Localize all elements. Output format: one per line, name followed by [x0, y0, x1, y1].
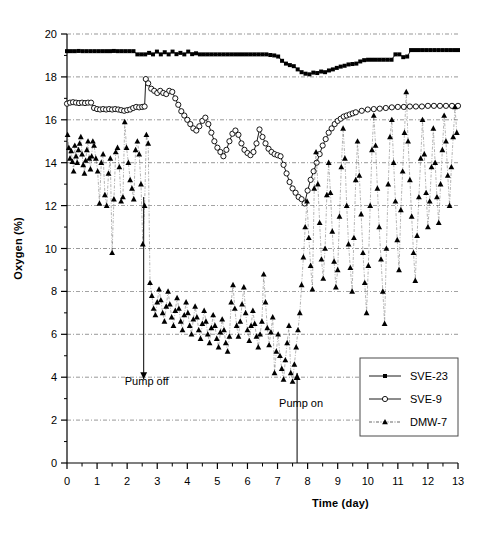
data-point-marker — [432, 160, 438, 165]
data-point-marker — [291, 361, 297, 366]
data-point-marker — [365, 107, 370, 112]
data-point-marker — [315, 71, 319, 75]
data-point-marker — [335, 267, 341, 272]
data-point-marker — [340, 125, 346, 130]
data-point-marker — [358, 211, 364, 216]
data-point-marker — [433, 48, 437, 52]
data-point-marker — [295, 327, 301, 332]
data-point-marker — [107, 155, 113, 160]
data-point-marker — [413, 104, 418, 109]
data-point-marker — [416, 194, 422, 199]
data-point-marker — [221, 154, 226, 159]
data-point-marker — [104, 203, 110, 208]
legend-label-dmw-7: DMW-7 — [410, 416, 447, 428]
data-point-marker — [373, 142, 379, 147]
data-point-marker — [355, 138, 361, 143]
legend-label-sve-23: SVE-23 — [410, 370, 448, 382]
data-point-marker — [155, 50, 159, 54]
y-tick-label: 10 — [45, 243, 57, 255]
data-point-marker — [412, 278, 418, 283]
data-point-marker — [356, 172, 362, 177]
data-point-marker — [346, 241, 352, 246]
data-point-marker — [292, 64, 296, 68]
data-point-marker — [364, 310, 370, 315]
data-point-marker — [167, 301, 173, 306]
data-point-marker — [425, 103, 430, 108]
data-point-marker — [326, 160, 332, 165]
data-point-marker — [151, 52, 155, 56]
data-point-marker — [421, 48, 425, 52]
data-point-marker — [335, 66, 339, 70]
data-point-marker — [376, 224, 382, 229]
data-point-marker — [180, 327, 186, 332]
x-tick-label: 3 — [154, 475, 160, 487]
chart-canvas: 02468101214161820012345678910111213Time … — [0, 0, 492, 533]
data-point-marker — [239, 301, 245, 306]
data-point-marker — [178, 318, 184, 323]
data-point-marker — [236, 132, 241, 137]
data-point-marker — [202, 52, 206, 56]
data-point-marker — [198, 52, 202, 56]
data-point-marker — [159, 52, 163, 56]
data-point-marker — [327, 68, 331, 72]
data-point-marker — [338, 164, 344, 169]
data-point-marker — [273, 348, 279, 353]
data-point-marker — [167, 52, 171, 56]
data-point-marker — [343, 64, 347, 68]
data-point-marker — [272, 53, 276, 57]
data-point-marker — [315, 181, 321, 186]
x-tick-label: 6 — [244, 475, 250, 487]
data-point-marker — [311, 71, 315, 75]
data-point-marker — [400, 168, 406, 173]
data-point-marker — [454, 130, 460, 135]
data-point-marker — [306, 235, 312, 240]
data-point-marker — [257, 52, 261, 56]
data-point-marker — [71, 168, 77, 173]
data-point-marker — [133, 147, 139, 152]
data-point-marker — [304, 72, 308, 76]
data-point-marker — [243, 310, 249, 315]
data-point-marker — [187, 323, 193, 328]
data-point-marker — [89, 153, 95, 158]
data-point-marker — [224, 147, 229, 152]
data-point-marker — [142, 104, 147, 109]
data-point-marker — [73, 49, 77, 53]
data-point-marker — [443, 103, 448, 108]
data-point-marker — [88, 166, 94, 171]
x-tick-label: 7 — [274, 475, 280, 487]
x-tick-label: 2 — [124, 475, 130, 487]
data-point-marker — [350, 62, 354, 66]
data-point-marker — [229, 52, 233, 56]
data-point-marker — [281, 162, 286, 167]
data-point-marker — [142, 203, 148, 208]
data-point-marker — [390, 58, 394, 62]
data-point-marker — [253, 52, 257, 56]
pump-on-label: Pump on — [279, 397, 323, 409]
data-point-marker — [174, 295, 180, 300]
series-sve-9 — [64, 76, 460, 206]
data-point-marker — [127, 177, 133, 182]
data-point-marker — [323, 137, 328, 142]
data-point-marker — [452, 48, 456, 52]
data-point-marker — [174, 52, 178, 56]
data-point-marker — [391, 160, 397, 165]
data-point-marker — [362, 280, 368, 285]
data-point-marker — [160, 310, 166, 315]
data-point-marker — [246, 338, 252, 343]
data-point-marker — [88, 49, 92, 53]
pump-on-arrowhead — [294, 373, 301, 380]
data-point-marker — [125, 160, 131, 165]
data-point-marker — [210, 312, 216, 317]
data-point-marker — [366, 58, 370, 62]
data-point-marker — [284, 62, 288, 66]
data-point-marker — [128, 49, 132, 53]
data-point-marker — [194, 314, 200, 319]
data-point-marker — [225, 348, 231, 353]
data-point-marker — [311, 169, 316, 174]
data-point-marker — [397, 52, 401, 56]
data-point-marker — [252, 320, 258, 325]
data-point-marker — [333, 284, 339, 289]
data-point-marker — [278, 154, 283, 159]
data-point-marker — [261, 52, 265, 56]
data-point-marker — [241, 284, 247, 289]
